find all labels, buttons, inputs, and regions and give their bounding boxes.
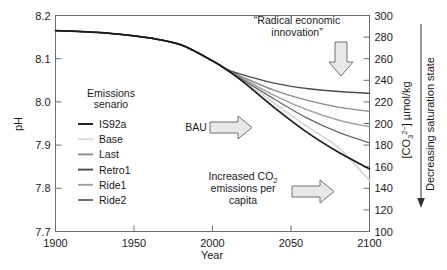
x-tick-label: 1950 (122, 237, 146, 249)
y2-title-suffix: ] µmol/kg (400, 81, 412, 126)
y2-tick-label: 200 (375, 118, 393, 130)
y2-tick-label: 120 (375, 204, 393, 216)
y2-tick-label: 260 (375, 53, 393, 65)
x-tick-label: 2050 (279, 237, 303, 249)
radical-annotation-line1: “Radical economic (254, 14, 340, 26)
legend-label-base: Base (99, 133, 123, 145)
y-axis-title: pH (12, 117, 24, 131)
y2-tick-label: 280 (375, 31, 393, 43)
y-tick-label: 8.1 (35, 53, 50, 65)
legend-label-retro1: Retro1 (99, 164, 131, 176)
y2-tick-label: 180 (375, 139, 393, 151)
saturation-note-label: Decreasing saturation state (424, 57, 436, 191)
chart-figure: 7.77.87.98.08.18.2 100120140160180200220… (0, 0, 447, 270)
y2-tick-label: 160 (375, 161, 393, 173)
y2-tick-label: 140 (375, 182, 393, 194)
increased-annotation-line1: Increased CO (209, 170, 274, 182)
legend-heading-line2: senario (94, 98, 129, 110)
y-tick-label: 8.2 (35, 10, 50, 22)
radical-annotation-line2: innovation” (271, 26, 323, 38)
legend-label-ride1: Ride1 (99, 179, 127, 191)
legend-label-is92a: IS92a (99, 118, 127, 130)
x-axis-title: Year (201, 249, 224, 261)
y2-tick-label: 240 (375, 74, 393, 86)
legend-label-last: Last (99, 148, 119, 160)
y-tick-label: 8.0 (35, 96, 50, 108)
ocean-acidification-chart: 7.77.87.98.08.18.2 100120140160180200220… (0, 0, 447, 270)
y2-tick-label: 300 (375, 10, 393, 22)
x-tick-label: 2100 (357, 237, 381, 249)
increased-annotation-line2: emissions per (211, 182, 276, 194)
y2-title-prefix: [CO (400, 139, 412, 159)
x-tick-label: 2000 (200, 237, 224, 249)
bau-annotation-label: BAU (185, 121, 207, 133)
legend-label-ride2: Ride2 (99, 194, 127, 206)
x-tick-label: 1900 (43, 237, 67, 249)
y2-tick-label: 220 (375, 96, 393, 108)
y-tick-label: 7.8 (35, 182, 50, 194)
increased-annotation-line3: capita (229, 194, 257, 206)
y-tick-label: 7.9 (35, 139, 50, 151)
